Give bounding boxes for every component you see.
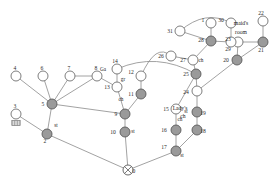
graph-edge bbox=[47, 134, 128, 170]
graph-node-11[interactable] bbox=[136, 89, 146, 99]
node-label-1: 1 bbox=[202, 17, 205, 23]
graph-node-16[interactable] bbox=[171, 125, 181, 135]
node-label-25: 25 bbox=[183, 71, 189, 77]
node-label-30: 30 bbox=[218, 17, 224, 23]
node-label-11: 11 bbox=[128, 91, 134, 97]
annotation-st-17: st bbox=[180, 152, 184, 158]
graph-node-28[interactable] bbox=[206, 36, 216, 46]
node-label-10: 10 bbox=[110, 129, 116, 135]
graph-node-20[interactable] bbox=[232, 55, 242, 65]
node-label-5: 5 bbox=[42, 101, 45, 107]
node-label-14: 14 bbox=[112, 58, 118, 64]
graph-node-31[interactable] bbox=[175, 26, 185, 36]
graph-node-24[interactable] bbox=[192, 86, 202, 96]
node-label-17: 17 bbox=[161, 144, 167, 150]
graph-edge bbox=[16, 114, 47, 134]
graph-node-3[interactable] bbox=[11, 109, 21, 119]
node-label-26: 26 bbox=[158, 53, 164, 59]
graph-node-5[interactable] bbox=[47, 99, 57, 109]
node-label-21: 21 bbox=[258, 47, 264, 53]
node-label-15: 15 bbox=[163, 106, 169, 112]
graph-node-12[interactable] bbox=[136, 71, 146, 81]
node-label-12: 12 bbox=[128, 69, 134, 75]
graph-node-14[interactable] bbox=[112, 64, 122, 74]
graph-edge bbox=[197, 60, 237, 91]
annotation-ladys-ch-2: ch bbox=[180, 113, 185, 119]
node-label-29: 29 bbox=[225, 46, 231, 52]
graph-node-13[interactable] bbox=[112, 82, 122, 92]
node-label-18: 18 bbox=[200, 128, 206, 134]
graph-canvas: 0234567891011121314151617181920212223242… bbox=[0, 0, 280, 188]
graph-node-8[interactable] bbox=[92, 71, 102, 81]
node-label-2: 2 bbox=[44, 138, 47, 144]
graph-node-27[interactable] bbox=[188, 55, 198, 65]
annotation-ch-13: ch bbox=[119, 96, 124, 102]
graph-node-7[interactable] bbox=[65, 71, 75, 81]
graph-edge bbox=[52, 76, 97, 104]
node-label-16: 16 bbox=[161, 127, 167, 133]
node-label-22: 22 bbox=[258, 10, 264, 16]
graph-node-26[interactable] bbox=[166, 51, 176, 61]
node-label-6: 6 bbox=[41, 65, 44, 71]
node-label-13: 13 bbox=[104, 84, 110, 90]
graph-edge bbox=[125, 132, 128, 170]
annotation-ladys-ch-1: Lady's bbox=[173, 105, 188, 111]
node-label-24: 24 bbox=[183, 89, 189, 95]
graph-node-21[interactable] bbox=[258, 37, 268, 47]
node-label-28: 28 bbox=[198, 37, 204, 43]
graph-edge bbox=[16, 76, 52, 104]
node-label-31: 31 bbox=[167, 28, 173, 34]
annotation-st-10: st bbox=[131, 128, 135, 134]
access-graph-figure: 0234567891011121314151617181920212223242… bbox=[0, 0, 280, 188]
annotation-gr-13: gr bbox=[121, 76, 126, 82]
annotation-maids-1: maid's bbox=[234, 20, 248, 26]
node-label-23: 23 bbox=[225, 36, 231, 42]
node-label-4: 4 bbox=[14, 65, 17, 71]
graph-node-4[interactable] bbox=[11, 71, 21, 81]
graph-node-22[interactable] bbox=[258, 16, 268, 26]
annotation-ch-27: ch bbox=[199, 57, 204, 63]
annotations-layer: stGagrchstchststchLady'schmaid'sroom bbox=[54, 20, 248, 158]
annotation-maids-2: room bbox=[235, 29, 247, 35]
node-label-0: 0 bbox=[133, 168, 136, 174]
node-label-27: 27 bbox=[180, 57, 186, 63]
node-label-9: 9 bbox=[115, 111, 118, 117]
graph-node-10[interactable] bbox=[120, 127, 130, 137]
annotation-st-2: st bbox=[54, 122, 58, 128]
graph-node-9[interactable] bbox=[120, 109, 130, 119]
graph-node-25[interactable] bbox=[191, 69, 201, 79]
node-label-3: 3 bbox=[14, 103, 17, 109]
node-label-8: 8 bbox=[95, 65, 98, 71]
node-label-19: 19 bbox=[200, 110, 206, 116]
node-label-20: 20 bbox=[223, 57, 229, 63]
graph-node-1[interactable] bbox=[206, 18, 216, 28]
graph-node-6[interactable] bbox=[38, 71, 48, 81]
node-label-7: 7 bbox=[68, 65, 71, 71]
annotation-Ga-14: Ga bbox=[100, 66, 107, 72]
